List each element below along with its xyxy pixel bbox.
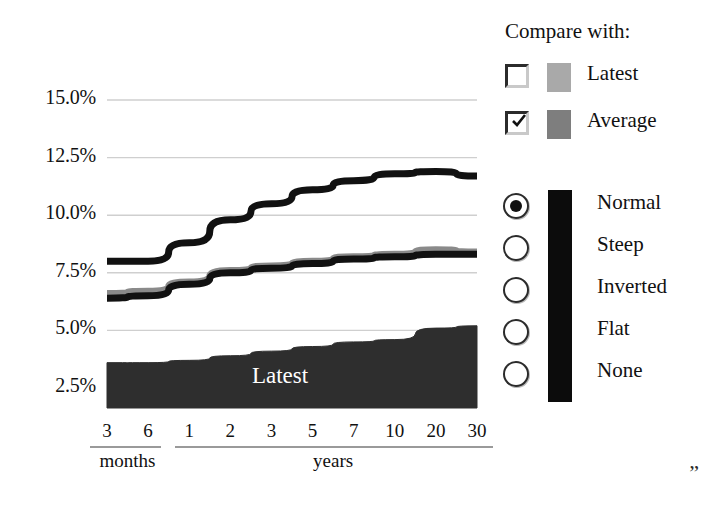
radio-steep[interactable] [505,237,527,259]
checkbox-average[interactable] [505,111,529,135]
compare-option-label: Average [587,108,657,133]
chart-area: Latest 15.0%12.5%10.0%7.5%5.0%2.5% 36123… [0,0,490,506]
x-axis-tick-label: 30 [462,420,492,442]
yield-curve-widget: Latest 15.0%12.5%10.0%7.5%5.0%2.5% 36123… [0,0,705,506]
x-axis-tick-label: 3 [256,420,286,442]
trailing-quote-mark: ” [689,462,699,484]
x-axis-tick-label: 3 [92,420,122,442]
y-axis-tick-label: 15.0% [10,86,96,109]
radio-flat[interactable] [505,321,527,343]
x-axis-tick-label: 6 [133,420,163,442]
shape-option-label: Inverted [597,274,667,299]
radio-normal[interactable] [505,195,527,217]
legend-swatch-average [547,110,571,139]
x-axis-tick-label: 5 [298,420,328,442]
x-axis-tick-label: 1 [174,420,204,442]
x-axis-group-label: years [263,450,403,472]
shape-option-label: Flat [597,316,630,341]
radio-none[interactable] [505,363,527,385]
checkmark-icon [511,113,527,129]
shape-option-label: Steep [597,232,644,257]
y-axis-tick-label: 7.5% [10,259,96,282]
axis-group-rule [90,446,161,448]
side-panel: Compare with: LatestAverage NormalSteepI… [494,0,705,506]
mode-color-bar [548,190,572,402]
radio-selected-dot [510,200,522,212]
x-axis-tick-label: 2 [215,420,245,442]
y-axis-tick-label: 12.5% [10,144,96,167]
axis-group-rule [175,446,493,448]
x-axis-tick-label: 10 [380,420,410,442]
area-series-label: Latest [252,363,309,388]
x-axis-tick-label: 20 [421,420,451,442]
x-axis-group-label: months [58,450,198,472]
shape-option-label: None [597,358,643,383]
y-axis-tick-label: 5.0% [10,316,96,339]
radio-inverted[interactable] [505,279,527,301]
legend-swatch-latest [547,63,571,92]
y-axis-tick-label: 2.5% [10,374,96,397]
compare-option-label: Latest [587,61,638,86]
shape-option-label: Normal [597,190,661,215]
checkbox-latest[interactable] [505,64,529,88]
x-axis-tick-label: 7 [339,420,369,442]
compare-with-title: Compare with: [505,19,630,44]
y-axis-tick-label: 10.0% [10,201,96,224]
